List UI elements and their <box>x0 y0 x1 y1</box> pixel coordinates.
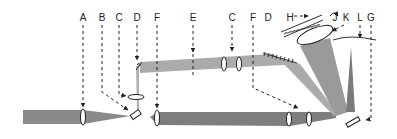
pointer-b <box>102 25 128 110</box>
label-d2: D <box>264 12 271 23</box>
curved-surface-l <box>333 37 376 40</box>
label-l: L <box>357 12 363 23</box>
lens-c2-b <box>237 57 242 71</box>
label-f1: F <box>154 12 160 23</box>
lens-a <box>81 109 86 125</box>
beams <box>23 38 355 126</box>
lens-c1 <box>128 95 144 100</box>
label-k: K <box>343 12 350 23</box>
lens-f2-a <box>287 112 292 126</box>
pointer-k <box>332 25 344 31</box>
beam-splitter-b <box>130 110 141 120</box>
label-b: B <box>99 12 106 23</box>
mirror-g <box>346 117 360 127</box>
input-beam <box>23 110 130 124</box>
lens-f1 <box>155 110 160 126</box>
split-beam-vertical <box>136 66 139 112</box>
lens-f2-b <box>307 112 312 126</box>
pointer-c1 <box>119 25 126 96</box>
label-e: E <box>190 12 197 23</box>
label-f2: F <box>250 12 256 23</box>
label-a: A <box>80 12 87 23</box>
label-g: G <box>367 12 375 23</box>
vertical-spike <box>346 47 355 112</box>
label-c2: C <box>228 12 235 23</box>
label-c1: C <box>115 12 122 23</box>
label-j: J <box>333 12 338 23</box>
label-h: H <box>286 12 293 23</box>
label-d1: D <box>133 12 140 23</box>
optical-diagram: A B C D F E C F D H J K L G <box>0 0 397 139</box>
labels: A B C D F E C F D H J K L G <box>80 12 375 23</box>
lens-c2-a <box>222 57 227 71</box>
